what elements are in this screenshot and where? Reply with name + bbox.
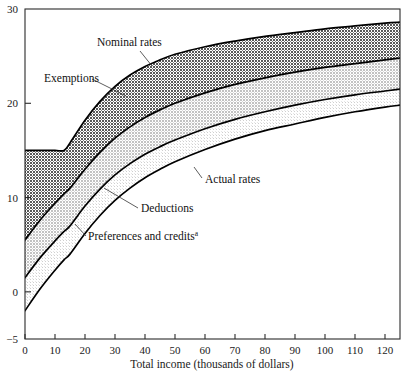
x-axis-tick-labels: 0102030405060708090100110120 [22, 344, 394, 356]
y-tick-label--5: −5 [6, 333, 18, 345]
y-tick-label-20: 20 [7, 97, 19, 109]
annotation-exemptions: Exemptions [44, 72, 99, 85]
x-tick-label-120: 120 [377, 344, 394, 356]
annotation-preferences-credits: Preferences and creditsa [88, 229, 199, 242]
x-tick-label-80: 80 [260, 344, 272, 356]
x-tick-label-30: 30 [110, 344, 122, 356]
x-tick-label-110: 110 [347, 344, 364, 356]
annotation-nominal-rates: Nominal rates [97, 36, 162, 48]
x-tick-label-20: 20 [80, 344, 92, 356]
x-tick-label-90: 90 [290, 344, 302, 356]
x-tick-label-0: 0 [22, 344, 28, 356]
tax-rates-area-chart: 0102030405060708090100110120 −50102030 N… [0, 0, 413, 375]
x-tick-label-70: 70 [230, 344, 242, 356]
chart-canvas: 0102030405060708090100110120 −50102030 N… [0, 0, 413, 375]
x-tick-label-50: 50 [170, 344, 182, 356]
x-tick-label-10: 10 [50, 344, 62, 356]
annotation-actual-rates: Actual rates [205, 173, 261, 185]
y-axis-tick-labels: −50102030 [6, 3, 18, 345]
x-axis-title: Total income (thousands of dollars) [130, 358, 294, 371]
x-tick-label-100: 100 [317, 344, 334, 356]
x-tick-label-40: 40 [140, 344, 152, 356]
annotation-deductions: Deductions [141, 202, 194, 214]
y-tick-label-0: 0 [13, 286, 19, 298]
y-tick-label-30: 30 [7, 3, 19, 15]
y-tick-label-10: 10 [7, 192, 19, 204]
x-tick-label-60: 60 [200, 344, 212, 356]
